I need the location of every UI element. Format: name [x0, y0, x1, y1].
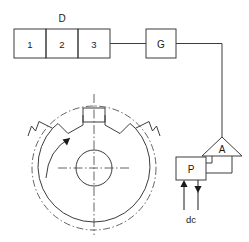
rotor-tooth-left	[28, 122, 53, 137]
wire-gate-to-amplifier	[176, 44, 222, 138]
dc-supply: dc	[180, 180, 201, 225]
gate-block[interactable]: G	[146, 29, 176, 58]
amplifier-block[interactable]: A	[202, 137, 242, 156]
gate-label: G	[157, 39, 165, 50]
dc-label: dc	[186, 214, 196, 225]
diagram-canvas: D 1 2 3 G A P dc	[0, 0, 249, 242]
wire-amplifier-outer-to-power	[206, 156, 232, 173]
supply-arrow-up-head	[180, 180, 187, 187]
wire-amplifier-inner-to-power	[206, 156, 212, 163]
decoder-cell-2-label: 2	[59, 39, 64, 50]
decoder-block: D 1 2 3	[14, 13, 110, 58]
decoder-label: D	[58, 13, 65, 24]
decoder-cell-3-label: 3	[91, 39, 96, 50]
supply-arrow-down-head	[194, 186, 201, 193]
power-block[interactable]: P	[176, 157, 206, 180]
decoder-cell-1-label: 1	[27, 39, 32, 50]
amplifier-label: A	[219, 144, 226, 155]
schematic-svg: D 1 2 3 G A P dc	[0, 0, 249, 242]
rotor-tooth-right	[135, 122, 160, 137]
power-label: P	[188, 164, 195, 175]
notched-rotor-disc[interactable]	[28, 94, 160, 235]
